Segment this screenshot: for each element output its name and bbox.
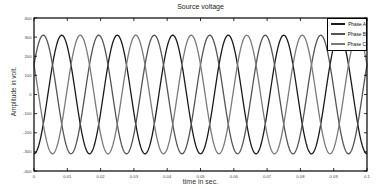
plot-curves xyxy=(34,35,367,154)
series-line-phase-c xyxy=(34,35,367,154)
x-axis-ticks: 00.010.020.030.040.050.060.070.080.090.1 xyxy=(33,18,371,179)
legend-item-phase-c: Phase C xyxy=(328,39,366,49)
y-tick-label: 200 xyxy=(25,54,33,59)
y-axis-label: Amplitude in volt. xyxy=(10,57,17,127)
legend-label: Phase A xyxy=(348,22,366,27)
y-tick-label: -400 xyxy=(23,169,32,174)
legend-label: Phase C xyxy=(348,42,366,47)
y-tick-label: 400 xyxy=(25,16,33,21)
y-tick-label: -200 xyxy=(23,130,32,135)
legend-swatch-phase-b xyxy=(331,33,345,34)
series-line-phase-a xyxy=(34,35,367,154)
series-line-phase-b xyxy=(34,35,367,154)
legend-label: Phase B xyxy=(348,32,366,37)
y-tick-label: 100 xyxy=(25,73,33,78)
legend: Phase A Phase B Phase C xyxy=(327,18,367,51)
legend-item-phase-a: Phase A xyxy=(328,19,366,29)
x-axis-label: time in sec. xyxy=(34,178,367,185)
y-tick-label: 300 xyxy=(25,35,33,40)
legend-item-phase-b: Phase B xyxy=(328,29,366,39)
y-tick-label: 0 xyxy=(29,92,32,97)
y-tick-label: -300 xyxy=(23,149,32,154)
y-tick-label: -100 xyxy=(23,111,32,116)
chart-title: Source voltage xyxy=(34,3,367,10)
legend-swatch-phase-a xyxy=(331,23,345,24)
chart-canvas: 00.010.020.030.040.050.060.070.080.090.1… xyxy=(0,0,383,189)
legend-swatch-phase-c xyxy=(331,43,345,44)
